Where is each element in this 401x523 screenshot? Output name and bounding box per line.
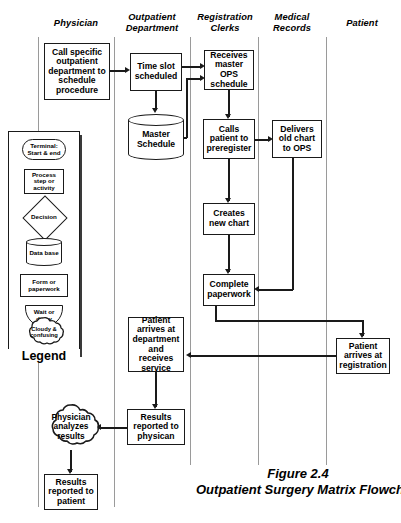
node-complete-paperwork-label: Complete paperwork bbox=[205, 280, 253, 299]
node-delivers-old-chart-to-ops[interactable]: Delivers old chart to OPS bbox=[272, 120, 322, 158]
legend-item-database: Data base bbox=[26, 238, 62, 266]
connector-call-to-timeslot bbox=[110, 70, 126, 72]
legend-item-document-label: Form or paperwork bbox=[21, 279, 67, 292]
node-master-schedule-label: Master Schedule bbox=[128, 114, 184, 160]
lane-header-physician: Physician bbox=[38, 18, 114, 29]
lane-header-medical-records: Medical Records bbox=[258, 12, 326, 33]
legend-item-process: Process step or activity bbox=[24, 169, 64, 194]
lane-header-outpatient-department: Outpatient Department bbox=[114, 12, 190, 33]
legend-item-decision: Decision bbox=[19, 202, 69, 232]
node-patient-arrives-at-department[interactable]: Patient arrives at department and receiv… bbox=[128, 317, 184, 372]
node-results-reported-to-patient-label: Results reported to patient bbox=[46, 478, 96, 507]
connector-delivers-down bbox=[292, 158, 294, 290]
legend-item-cloud-label: Cloudy & confusing bbox=[22, 317, 66, 347]
node-time-slot-scheduled-label: Time slot scheduled bbox=[132, 62, 180, 81]
node-delivers-old-chart-to-ops-label: Delivers old chart to OPS bbox=[274, 125, 320, 154]
legend-item-terminal-label: Terminal: Start & end bbox=[23, 143, 65, 156]
connector-registration-to-department bbox=[191, 355, 337, 357]
legend-panel: Terminal: Start & end Process step or ac… bbox=[8, 131, 80, 368]
lane-divider-5 bbox=[326, 37, 327, 465]
connector-delivers-to-complete bbox=[259, 289, 293, 291]
legend-item-decision-label: Decision bbox=[31, 214, 57, 221]
legend-item-database-label: Data base bbox=[26, 238, 62, 266]
node-receives-master-ops-schedule[interactable]: Receives master OPS schedule bbox=[204, 50, 254, 90]
node-calls-patient-to-preregister[interactable]: Calls patient to preregister bbox=[203, 119, 255, 159]
node-call-specific-department[interactable]: Call specific outpatient department to s… bbox=[44, 43, 110, 100]
connector-complete-right bbox=[215, 320, 363, 322]
lane-header-medical-line2: Records bbox=[273, 23, 311, 33]
node-results-reported-to-physician[interactable]: Results reported to physican bbox=[127, 409, 185, 445]
node-patient-arrives-at-department-label: Patient arrives at department and receiv… bbox=[130, 316, 182, 374]
legend-item-terminal: Terminal: Start & end bbox=[22, 139, 66, 160]
legend-item-cloud: Cloudy & confusing bbox=[22, 317, 66, 347]
lane-header-medical-line1: Medical bbox=[275, 12, 310, 22]
node-creates-new-chart-label: Creates new chart bbox=[205, 209, 253, 228]
lane-header-physician-label: Physician bbox=[54, 18, 98, 28]
node-call-specific-department-label: Call specific outpatient department to s… bbox=[46, 48, 108, 96]
lane-divider-3 bbox=[190, 37, 191, 465]
node-receives-master-ops-schedule-label: Receives master OPS schedule bbox=[206, 51, 252, 89]
node-master-schedule-database[interactable]: Master Schedule bbox=[128, 114, 184, 160]
node-creates-new-chart[interactable]: Creates new chart bbox=[203, 203, 255, 235]
legend-item-document: Form or paperwork bbox=[20, 274, 68, 297]
figure-caption: Figure 2.4 Outpatient Surgery Matrix Flo… bbox=[196, 466, 400, 498]
arrowhead-registration-to-department bbox=[186, 352, 191, 358]
node-physician-analyzes-results-label: Physician analyzes results bbox=[42, 404, 100, 450]
node-calls-patient-to-preregister-label: Calls patient to preregister bbox=[205, 125, 253, 154]
connector-receives-to-calls bbox=[228, 90, 230, 117]
node-time-slot-scheduled[interactable]: Time slot scheduled bbox=[130, 53, 182, 91]
connector-master-up-vertical bbox=[186, 78, 188, 138]
lane-divider-4 bbox=[258, 37, 259, 465]
legend-title: Legend bbox=[8, 349, 80, 363]
node-complete-paperwork[interactable]: Complete paperwork bbox=[203, 274, 255, 306]
node-results-reported-to-physician-label: Results reported to physican bbox=[129, 413, 183, 442]
figure-title: Outpatient Surgery Matrix Flowchart bbox=[196, 482, 400, 498]
lane-header-registration-line1: Registration bbox=[197, 12, 252, 22]
lane-header-outpatient-line1: Outpatient bbox=[128, 12, 175, 22]
node-patient-arrives-at-registration-label: Patient arrives at registration bbox=[338, 342, 388, 371]
legend-item-process-label: Process step or activity bbox=[25, 172, 63, 192]
connector-calls-to-creates bbox=[228, 159, 230, 201]
connector-results-to-physician-cloud bbox=[100, 427, 128, 429]
lane-header-patient: Patient bbox=[326, 18, 398, 29]
figure-number: Figure 2.4 bbox=[196, 466, 400, 482]
node-patient-arrives-at-registration[interactable]: Patient arrives at registration bbox=[336, 338, 390, 374]
connector-creates-to-complete bbox=[228, 235, 230, 272]
node-results-reported-to-patient[interactable]: Results reported to patient bbox=[44, 474, 98, 510]
lane-header-registration-clerks: Registration Clerks bbox=[190, 12, 260, 33]
lane-header-registration-line2: Clerks bbox=[210, 23, 239, 33]
connector-department-to-results bbox=[155, 372, 157, 407]
connector-timeslot-to-receives bbox=[182, 66, 202, 68]
node-physician-analyzes-results[interactable]: Physician analyzes results bbox=[42, 404, 100, 450]
lane-header-patient-label: Patient bbox=[346, 18, 378, 28]
flowchart-canvas: Physician Outpatient Department Registra… bbox=[0, 0, 401, 523]
lane-header-outpatient-line2: Department bbox=[126, 23, 179, 33]
arrowhead-timeslot-to-master bbox=[152, 108, 158, 113]
lane-divider-2 bbox=[114, 37, 115, 507]
connector-complete-down bbox=[215, 306, 217, 321]
